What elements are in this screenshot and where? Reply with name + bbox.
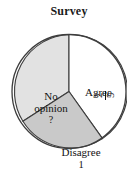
- pie-label-no-opinion: No opinion ?: [25, 91, 77, 125]
- pie-label-disagree-numerator: 1: [76, 160, 85, 169]
- pie-label-agree-fraction: 2 5: [94, 78, 108, 100]
- pie-label-disagree-text: Disagree: [54, 147, 108, 159]
- survey-pie-chart-figure: Survey Agree 2 5 No: [0, 0, 138, 168]
- pie-label-no-opinion-line2: opinion: [25, 103, 77, 115]
- pie-label-agree-numerator: 2: [94, 90, 104, 99]
- pie-label-disagree-fraction: 1 4: [76, 160, 85, 169]
- pie-chart: Agree 2 5 No opinion ? Disagree 1 4: [11, 33, 127, 150]
- pie-label-disagree: Disagree 1 4: [54, 147, 108, 168]
- pie-label-agree: Agree 2 5: [85, 87, 129, 114]
- chart-title: Survey: [0, 4, 138, 18]
- pie-label-no-opinion-unknown: ?: [25, 114, 77, 125]
- pie-label-agree-denominator: 5: [106, 90, 116, 99]
- pie-label-no-opinion-line1: No: [25, 91, 77, 103]
